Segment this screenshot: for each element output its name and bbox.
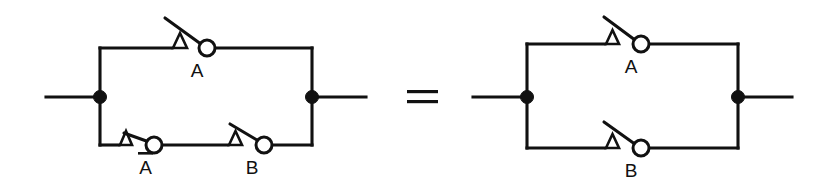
switching-circuit-diagram: A A B: [0, 0, 834, 183]
left-bottom-switch-1-label-group: A: [138, 152, 153, 178]
equals-sign: [407, 90, 438, 103]
left-top-switch-label: A: [191, 60, 204, 81]
left-top-switch-contact-icon[interactable]: [199, 40, 215, 56]
left-bottom-switch-2-label: B: [246, 157, 259, 178]
left-bottom-switch-2-contact-icon[interactable]: [256, 137, 272, 153]
left-circuit-group: A A B: [46, 18, 366, 178]
right-top-switch-contact-icon[interactable]: [633, 36, 649, 52]
left-bottom-switch-1-contact-icon[interactable]: [146, 137, 162, 153]
left-bottom-switch-2-pivot-icon: [229, 131, 242, 145]
right-top-switch-pivot-icon: [606, 30, 619, 44]
left-bottom-switch-1-label: A: [139, 157, 152, 178]
equals-bar-top: [407, 90, 438, 93]
equals-bar-bottom: [407, 100, 438, 103]
left-top-switch-pivot-icon: [173, 33, 187, 48]
left-circuit-output-node: [306, 91, 319, 104]
left-circuit-input-node: [94, 91, 107, 104]
circuit-canvas: A A B: [0, 0, 834, 183]
right-bottom-switch-contact-icon[interactable]: [633, 140, 649, 156]
right-bottom-switch-label: B: [625, 160, 638, 181]
left-bottom-switch-1-overbar-icon: [138, 152, 153, 155]
right-circuit-group: A B: [473, 17, 792, 181]
right-top-switch-label: A: [625, 56, 638, 77]
right-circuit-output-node: [732, 91, 745, 104]
right-bottom-switch-pivot-icon: [606, 134, 619, 148]
right-circuit-input-node: [521, 91, 534, 104]
